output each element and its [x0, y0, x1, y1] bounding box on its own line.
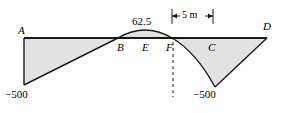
bending-moment-diagram: A B E F C D 62.5 −500 −500 5 m — [0, 0, 282, 113]
dimension-right-arrowhead-icon — [208, 14, 213, 19]
point-label-c: C — [208, 42, 215, 53]
point-label-d: D — [263, 21, 271, 32]
right-minimum-moment-value: −500 — [193, 89, 216, 100]
right-negative-moment-region — [172, 38, 267, 87]
point-label-b: B — [117, 42, 124, 53]
point-label-a: A — [18, 25, 25, 36]
dimension-label-5m: 5 m — [182, 10, 197, 20]
left-minimum-moment-value: −500 — [5, 89, 28, 100]
point-label-f: F — [166, 42, 173, 53]
dimension-left-arrowhead-icon — [172, 14, 177, 19]
point-label-e: E — [142, 42, 149, 53]
peak-moment-value: 62.5 — [132, 16, 151, 27]
